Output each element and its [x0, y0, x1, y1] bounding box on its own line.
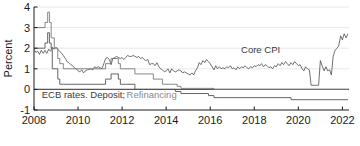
x-tick-label: 2016 — [198, 114, 222, 126]
y-axis-title-text: Percent — [2, 40, 14, 78]
x-tick-label: 2020 — [286, 114, 310, 126]
series-line-refinancing — [34, 12, 348, 89]
y-tick-label: 0 — [24, 83, 30, 95]
y-axis-title: Percent — [2, 40, 14, 78]
y-tick-label: 4 — [24, 1, 30, 13]
x-tick-label: 2014 — [154, 114, 178, 126]
y-tick-label: 3 — [24, 22, 30, 34]
ecb-rates-core-cpi-chart: -101234 20082010201220142016201820202022… — [0, 0, 360, 146]
annotation-refinancing: Refinancing — [127, 89, 177, 100]
y-axis-ticks: -101234 — [20, 1, 37, 116]
series-line-core-cpi — [34, 34, 348, 86]
x-tick-label: 2012 — [110, 114, 134, 126]
x-axis-ticks: 20082010201220142016201820202022 — [22, 107, 355, 127]
chart-canvas: -101234 20082010201220142016201820202022… — [0, 0, 360, 146]
x-tick-label: 2008 — [22, 114, 46, 126]
gridlines-group — [34, 7, 349, 89]
y-tick-label: 1 — [24, 63, 30, 75]
annotation-core-cpi: Core CPI — [241, 44, 280, 55]
y-tick-label: 2 — [24, 42, 30, 54]
x-tick-label: 2018 — [242, 114, 266, 126]
annotations-group: Core CPIECB rates. Deposit;Refinancing — [42, 44, 280, 100]
x-tick-label: 2022 — [330, 114, 354, 126]
x-tick-label: 2010 — [66, 114, 90, 126]
series-group — [34, 12, 348, 100]
annotation-ecb-rates-deposit: ECB rates. Deposit; — [42, 89, 125, 100]
